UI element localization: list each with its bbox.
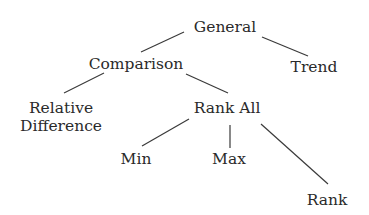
node-relative-difference-line2: Difference	[20, 117, 102, 135]
tree-diagram: General Comparison Trend Relative Differ…	[0, 0, 369, 215]
edge-general-comparison	[141, 32, 184, 52]
edge-rank-all-min	[142, 119, 189, 146]
node-comparison: Comparison	[89, 55, 184, 73]
node-min: Min	[121, 150, 152, 168]
node-rank: Rank	[307, 191, 348, 209]
edge-general-trend	[262, 37, 308, 56]
node-relative-difference-line1: Relative	[29, 99, 93, 117]
node-rank-all: Rank All	[194, 99, 261, 117]
edge-comparison-rank-all	[186, 74, 228, 93]
node-max: Max	[212, 150, 246, 168]
node-general: General	[194, 18, 256, 36]
edge-rank-all-rank	[261, 124, 328, 184]
edge-comparison-relative-difference	[64, 73, 104, 93]
node-trend: Trend	[291, 58, 338, 76]
